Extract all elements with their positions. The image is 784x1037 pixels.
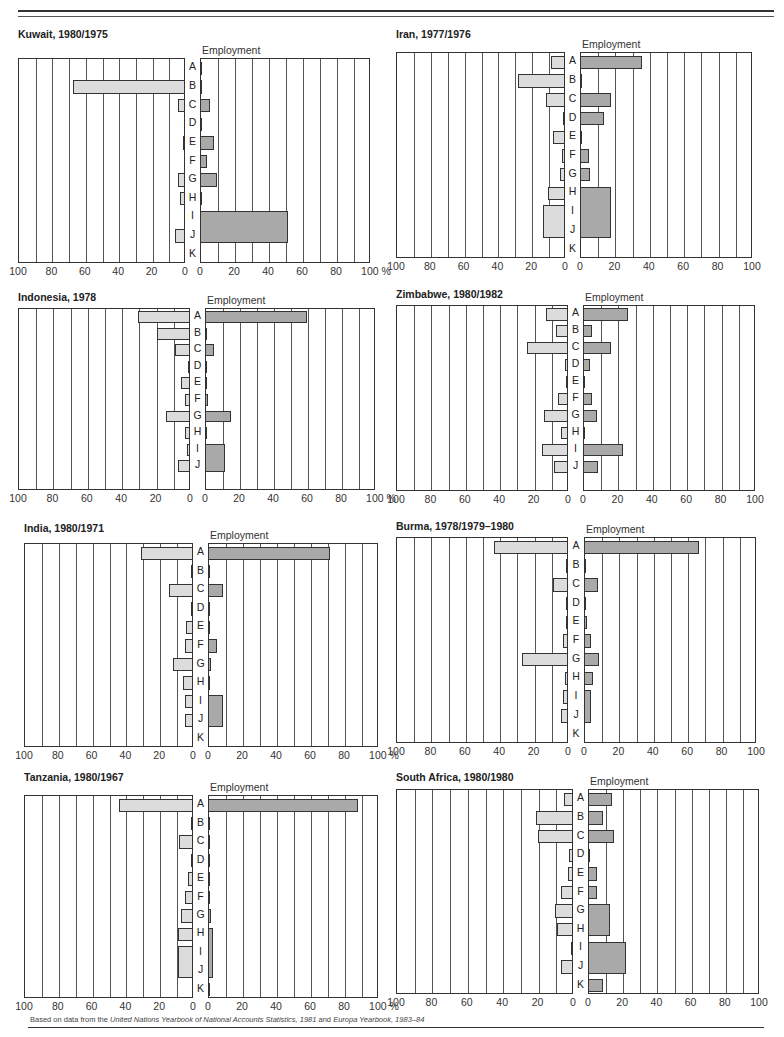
axis-tick: 100 (750, 996, 768, 1008)
employment-bar-a (584, 541, 699, 554)
category-label-j: J (194, 963, 208, 975)
industry-gdp-bar-a (546, 308, 568, 320)
category-label-g: G (569, 652, 583, 664)
gridline (328, 796, 329, 997)
industry-gdp-bar-c (546, 93, 565, 106)
chart-title: Tanzania, 1980/1967 (24, 771, 124, 783)
axis-tick: 20 (236, 749, 248, 761)
category-label-b: B (194, 564, 208, 576)
industry-gdp-bar-e (553, 131, 565, 144)
axis-tick: 0 (577, 260, 583, 272)
industry-gdp-bar-c (553, 578, 568, 591)
gridline (240, 309, 241, 489)
gridline (740, 538, 741, 742)
axis-tick: 40 (646, 493, 658, 505)
industry-gdp-bar-h (548, 187, 565, 200)
axis-tick: 80 (330, 265, 342, 277)
axis-tick: 0 (570, 996, 576, 1008)
gridline (601, 306, 602, 490)
gridline (719, 53, 720, 257)
axis-tick: 60 (81, 492, 93, 504)
axis-tick: 60 (79, 265, 91, 277)
category-label-b: B (191, 326, 205, 338)
category-label-f: F (569, 633, 583, 645)
category-label-f: F (574, 885, 588, 897)
axis-tick: 60 (301, 492, 313, 504)
gridline (42, 796, 43, 997)
employment-bar-k (588, 979, 603, 992)
employment-bar-g (208, 909, 211, 922)
industry-gdp-bar-i (542, 444, 568, 456)
chart-title: Burma, 1978/1979–1980 (396, 520, 514, 532)
employment-bar-e (200, 136, 214, 149)
gridline (431, 53, 432, 257)
employment-heading: Employment (210, 781, 268, 793)
industry-gdp-bar-b (556, 325, 568, 337)
axis-tick: 100 (9, 265, 27, 277)
axis-tick: 0 (190, 1000, 196, 1012)
industry-gdp-bar-j (561, 960, 573, 973)
industry-gdp-bar-g (522, 653, 568, 666)
gridline (320, 59, 321, 262)
category-label-d: D (574, 847, 588, 859)
category-label-e: E (566, 129, 580, 141)
axis-tick: 20 (532, 996, 544, 1008)
category-label-i: I (574, 940, 588, 952)
industry-gdp-panel (396, 52, 565, 258)
industry-gdp-bar-f (563, 634, 568, 647)
gridline (177, 544, 178, 746)
gridline (53, 309, 54, 489)
employment-bar-d (580, 112, 604, 125)
axis-tick: 40 (120, 749, 132, 761)
gridline (308, 309, 309, 489)
industry-gdp-bar-f (561, 886, 573, 899)
employment-bar-a (588, 793, 612, 806)
category-label-a: A (191, 309, 205, 321)
industry-gdp-bar-c (169, 584, 193, 597)
category-label-c: C (569, 340, 583, 352)
chart-title: India, 1980/1971 (24, 522, 104, 534)
axis-tick: 0 (562, 260, 568, 272)
gridline (260, 796, 261, 997)
employment-bar-a (583, 308, 628, 320)
source-note-prefix: Based on data from the (30, 1015, 110, 1024)
employment-bar-i (208, 695, 223, 727)
gridline (517, 306, 518, 490)
employment-bar-j (583, 461, 598, 473)
axis-tick: 80 (716, 745, 728, 757)
axis-tick: 20 (153, 1000, 165, 1012)
gridline (414, 53, 415, 257)
gridline (654, 538, 655, 742)
gridline (257, 309, 258, 489)
employment-bar-b (584, 559, 586, 572)
category-label-h: H (566, 185, 580, 197)
gridline (498, 53, 499, 257)
employment-panel (583, 305, 755, 491)
gridline (93, 796, 94, 997)
category-label-c: C (194, 582, 208, 594)
employment-bar-h (208, 676, 210, 689)
axis-tick: 80 (52, 749, 64, 761)
category-label-h: H (194, 675, 208, 687)
gridline (110, 796, 111, 997)
gridline (483, 306, 484, 490)
employment-bar-c (580, 93, 611, 106)
employment-bar-a (205, 311, 307, 323)
industry-gdp-bar-d (569, 849, 573, 862)
employment-panel (200, 58, 370, 263)
category-label-k: K (194, 731, 208, 743)
category-label-b: B (569, 323, 583, 335)
axis-tick: 40 (267, 492, 279, 504)
gridline (354, 59, 355, 262)
employment-panel (580, 52, 752, 258)
employment-heading: Employment (586, 523, 644, 535)
axis-tick: 20 (525, 260, 537, 272)
axis-tick: 60 (459, 745, 471, 757)
gridline (105, 309, 106, 489)
axis-tick: 40 (112, 265, 124, 277)
gridline (59, 796, 60, 997)
industry-gdp-bar-f (562, 149, 565, 162)
industry-gdp-bar-i (187, 444, 190, 456)
source-note-title-2: Europa Yearbook, 1983–84 (333, 1015, 424, 1024)
axis-tick: 80 (335, 492, 347, 504)
